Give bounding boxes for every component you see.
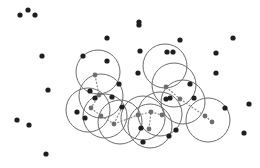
cluster-diagram <box>0 0 260 168</box>
data-point <box>241 130 246 135</box>
core-point <box>147 127 152 132</box>
data-point <box>173 127 178 132</box>
neighborhood-circle <box>186 98 230 142</box>
data-point <box>104 35 109 40</box>
data-point <box>213 50 218 55</box>
data-point <box>43 151 48 156</box>
core-point <box>136 113 141 118</box>
data-point <box>138 125 143 130</box>
data-point <box>135 70 140 75</box>
data-point <box>32 12 37 17</box>
data-point <box>92 95 97 100</box>
data-point <box>104 58 109 63</box>
data-point <box>25 7 30 12</box>
data-point <box>222 105 227 110</box>
core-point <box>149 110 154 115</box>
core-point <box>93 73 98 78</box>
data-point <box>167 95 172 100</box>
neighborhood-circle <box>66 88 110 132</box>
data-point <box>87 88 92 93</box>
core-point <box>97 93 102 98</box>
data-point <box>140 139 145 144</box>
data-point <box>14 117 19 122</box>
density-edge <box>95 75 99 95</box>
core-point <box>89 106 94 111</box>
core-point <box>112 122 117 127</box>
neighborhood-circle <box>121 96 165 140</box>
data-point <box>246 101 251 106</box>
data-point <box>177 37 182 42</box>
core-point <box>99 114 104 119</box>
data-point <box>74 109 79 114</box>
data-point <box>17 12 22 17</box>
density-edge <box>180 99 205 116</box>
core-point <box>160 113 165 118</box>
data-point <box>170 49 175 54</box>
data-point <box>191 95 196 100</box>
data-point <box>45 87 50 92</box>
data-point <box>187 81 192 86</box>
data-point <box>166 133 171 138</box>
data-point <box>116 81 121 86</box>
data-point <box>213 70 218 75</box>
core-point <box>203 114 208 119</box>
data-point <box>137 48 142 53</box>
data-point <box>230 35 235 40</box>
data-point <box>136 22 141 27</box>
data-point <box>39 53 44 58</box>
core-point <box>178 97 183 102</box>
neighborhood-circle <box>83 94 127 138</box>
density-edge <box>149 112 151 129</box>
data-point <box>109 94 114 99</box>
data-point <box>164 49 169 54</box>
data-point <box>26 122 31 127</box>
data-point <box>119 104 124 109</box>
core-point <box>210 120 215 125</box>
data-point <box>82 115 87 120</box>
core-point <box>164 85 169 90</box>
data-point <box>80 53 85 58</box>
neighborhood-circles <box>66 44 230 148</box>
data-points <box>14 7 251 156</box>
